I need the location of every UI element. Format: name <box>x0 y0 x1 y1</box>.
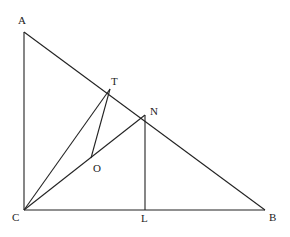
geometry-diagram: A T N O C L B <box>0 0 290 237</box>
segment-CN <box>24 115 145 210</box>
label-C: C <box>12 211 19 223</box>
segment-CT <box>24 89 110 210</box>
label-O: O <box>93 162 101 174</box>
segment-TO <box>91 89 110 158</box>
label-A: A <box>18 14 26 26</box>
label-T: T <box>111 75 118 87</box>
label-L: L <box>141 212 148 224</box>
label-N: N <box>150 105 158 117</box>
label-B: B <box>269 211 276 223</box>
